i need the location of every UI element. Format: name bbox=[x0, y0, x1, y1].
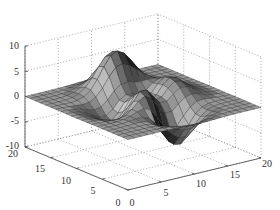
axis-line bbox=[126, 189, 129, 190]
y-axis-ticks: 20 15 10 5 0 bbox=[8, 148, 121, 208]
x-tick-label: 10 bbox=[196, 178, 206, 189]
y-tick-label: 5 bbox=[91, 185, 96, 196]
z-tick-label: 5 bbox=[14, 66, 19, 77]
y-tick-label: 15 bbox=[35, 163, 45, 174]
x-tick-label: 0 bbox=[130, 197, 135, 208]
z-axis-ticks: 10 5 0 -5 -10 bbox=[6, 40, 19, 151]
x-tick-label: 5 bbox=[164, 187, 169, 198]
x-axis-ticks: 0 5 10 15 20 bbox=[130, 158, 273, 208]
surface-mesh bbox=[25, 51, 261, 144]
z-tick-label: 0 bbox=[14, 90, 19, 101]
y-tick-label: 20 bbox=[8, 148, 18, 159]
grid-line bbox=[25, 14, 158, 46]
surface-plot: 10 5 0 -5 -10 20 15 10 5 0 0 5 10 15 20 bbox=[0, 0, 280, 210]
z-tick-label: -5 bbox=[11, 115, 19, 126]
z-tick-label: 10 bbox=[9, 40, 19, 51]
axis-line bbox=[102, 178, 105, 179]
axis-line bbox=[259, 157, 262, 158]
grid-line bbox=[158, 14, 261, 57]
axis-line bbox=[77, 168, 80, 169]
y-tick-label: 10 bbox=[61, 175, 71, 186]
axis-line bbox=[159, 181, 162, 182]
axis-line bbox=[225, 165, 228, 166]
axis-line bbox=[192, 173, 195, 174]
grid-line bbox=[77, 137, 210, 169]
axis-line bbox=[51, 157, 54, 158]
y-tick-label: 0 bbox=[116, 197, 121, 208]
x-tick-label: 20 bbox=[262, 158, 272, 169]
x-tick-label: 15 bbox=[230, 169, 240, 180]
